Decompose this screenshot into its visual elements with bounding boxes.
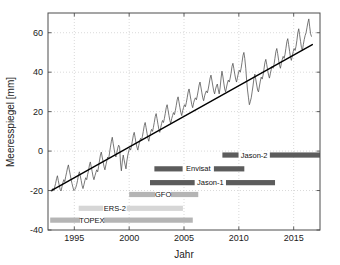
mission-bar-label-envisat: Envisat: [186, 164, 212, 173]
mission-bar-ers-2: [79, 206, 183, 211]
x-tick-label-2010: 2010: [229, 233, 249, 243]
x-tick-label-2005: 2005: [174, 233, 194, 243]
sea-level-figure: 19952000200520102015-40-200204060 Jason-…: [0, 0, 340, 265]
y-tick-label-40: 40: [33, 67, 43, 77]
x-tick-label-2000: 2000: [119, 233, 139, 243]
mission-bar-label-jason-2: Jason-2: [241, 151, 268, 160]
x-tick-label-2015: 2015: [284, 233, 304, 243]
y-tick-label-60: 60: [33, 28, 43, 38]
mission-bar-label-gfo: GFO: [155, 190, 171, 199]
sea-level-chart: 19952000200520102015-40-200204060 Jason-…: [0, 0, 340, 265]
y-tick-label-20: 20: [33, 107, 43, 117]
y-tick-label-neg40: -40: [30, 225, 43, 235]
x-axis-title: Jahr: [174, 249, 194, 260]
y-tick-label-0: 0: [38, 146, 43, 156]
y-axis-title: Meeresspiegel [mm]: [5, 77, 16, 167]
mission-bar-jason-2: [222, 152, 320, 157]
mission-bar-label-jason-1: Jason-1: [197, 178, 224, 187]
mission-bar-label-ers-2: ERS-2: [104, 204, 126, 213]
y-tick-label-neg20: -20: [30, 186, 43, 196]
mission-bar-label-topex: TOPEX: [79, 216, 104, 225]
figure-background: [0, 0, 340, 265]
x-tick-label-1995: 1995: [64, 233, 84, 243]
mission-bar-topex: [50, 218, 193, 223]
